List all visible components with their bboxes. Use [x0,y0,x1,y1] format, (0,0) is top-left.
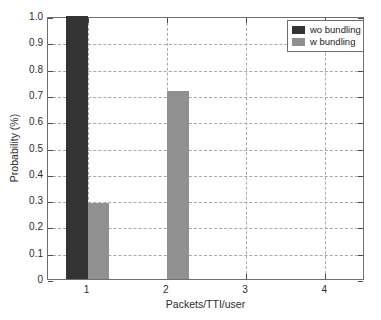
x-axis-tick-label: 4 [322,284,328,295]
y-axis-tick-labels: 00.10.20.30.40.50.60.70.80.91.0 [0,17,43,280]
x-axis-tick-label: 2 [163,284,169,295]
y-axis-tick-label: 0.3 [29,196,43,206]
x-axis-title: Packets/TTI/user [47,298,364,310]
x-axis-tick-label: 3 [242,284,248,295]
bar-w-bundling-1 [88,203,110,279]
legend-swatch-icon [292,26,305,34]
legend-item[interactable]: wo bundling [292,24,359,36]
plot-area [47,17,364,280]
legend-item[interactable]: w bundling [292,36,359,48]
legend-swatch-icon [292,38,305,46]
x-axis-tick-label: 1 [84,284,90,295]
x-axis-tick-labels: 1234 [47,284,364,298]
legend-label: wo bundling [310,25,361,35]
y-axis-tick-label: 0.5 [29,144,43,154]
y-axis-tick [48,281,53,282]
y-axis-tick-label: 0.8 [29,65,43,75]
y-axis-tick-label: 0 [37,275,43,285]
y-axis-tick-label: 0.2 [29,222,43,232]
bar-wo-bundling-1 [66,16,88,279]
y-axis-tick-right [358,281,363,282]
y-axis-tick-label: 1.0 [29,12,43,22]
y-axis-tick-label: 0.9 [29,38,43,48]
y-axis-tick-label: 0.4 [29,170,43,180]
y-axis-tick-label: 0.6 [29,117,43,127]
y-axis-tick-label: 0.1 [29,249,43,259]
bar-w-bundling-2 [167,91,189,279]
y-axis-tick-label: 0.7 [29,91,43,101]
chart-legend: wo bundlingw bundling [287,20,364,52]
bar-series-layer [48,18,363,279]
legend-label: w bundling [310,37,355,47]
y-axis-title: Probability (%) [8,73,20,223]
figure-canvas: 00.10.20.30.40.50.60.70.80.91.0 Probabil… [0,0,381,320]
